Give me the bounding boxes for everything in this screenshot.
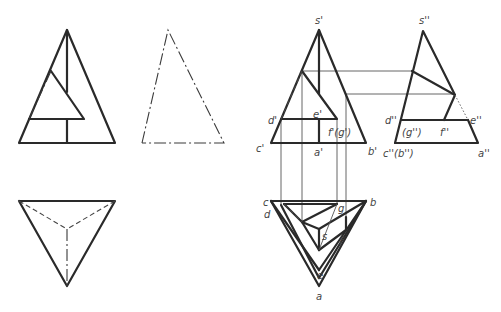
label-fg-prime: f'(g') xyxy=(328,127,351,138)
right-plan-thick-line xyxy=(302,204,337,222)
left-plan-view xyxy=(19,201,115,286)
right-plan-thick-line xyxy=(271,201,319,270)
right-front-view xyxy=(271,30,366,143)
label-a: a xyxy=(316,291,322,302)
label-s: s xyxy=(322,231,327,242)
label-s-dprime: s'' xyxy=(419,15,430,26)
left-front-dashdot-line xyxy=(29,71,51,119)
label-d-prime: d' xyxy=(268,115,277,126)
label-c-prime: c' xyxy=(256,143,264,154)
label-e: e xyxy=(317,270,323,281)
right-side-thick-line xyxy=(412,71,455,120)
label-d: d xyxy=(264,209,271,220)
label-e-prime: e' xyxy=(313,109,322,120)
left-front-thick-line xyxy=(29,71,84,119)
label-c: c xyxy=(263,197,269,208)
left-side-dashdot-line xyxy=(142,30,224,143)
drawing-canvas: s'd'e'f'(g')c'a'b's''d''e''(g'')f''c''(b… xyxy=(0,0,501,312)
label-a-dprime: a'' xyxy=(478,148,490,159)
label-e-dprime: e'' xyxy=(470,115,482,126)
right-front-thick-line xyxy=(281,71,337,119)
label-b: b xyxy=(370,197,376,208)
label-g-dprime: (g'') xyxy=(402,127,422,138)
right-side-dotted-line xyxy=(455,95,468,120)
left-front-view xyxy=(19,30,115,143)
left-side-view xyxy=(142,30,224,143)
label-d-dprime: d'' xyxy=(385,115,397,126)
label-s-prime: s' xyxy=(315,15,323,26)
label-b-prime: b' xyxy=(368,146,377,157)
vertex-labels: s'd'e'f'(g')c'a'b's''d''e''(g'')f''c''(b… xyxy=(256,15,490,302)
label-cb-dprime: c''(b'') xyxy=(383,148,414,159)
label-a-prime: a' xyxy=(314,147,323,158)
label-g: g xyxy=(338,203,344,214)
label-f-dprime: f'' xyxy=(440,127,449,138)
